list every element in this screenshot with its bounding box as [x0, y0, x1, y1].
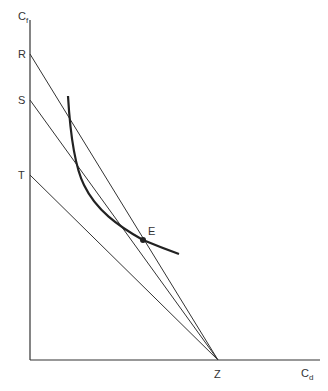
- label-R: R: [18, 48, 26, 60]
- y-axis-label: Cf: [18, 10, 28, 25]
- diagram-graphic: [0, 0, 328, 391]
- label-Z: Z: [214, 368, 221, 380]
- label-S: S: [18, 94, 25, 106]
- diagram: Cf R S T E Z Cd: [0, 0, 328, 391]
- label-T: T: [18, 169, 25, 181]
- line-TZ: [30, 175, 218, 360]
- x-axis-label: Cd: [301, 367, 313, 382]
- line-RZ: [30, 54, 218, 360]
- line-SZ: [30, 100, 218, 360]
- point-E-marker: [140, 237, 146, 243]
- label-E: E: [148, 225, 155, 237]
